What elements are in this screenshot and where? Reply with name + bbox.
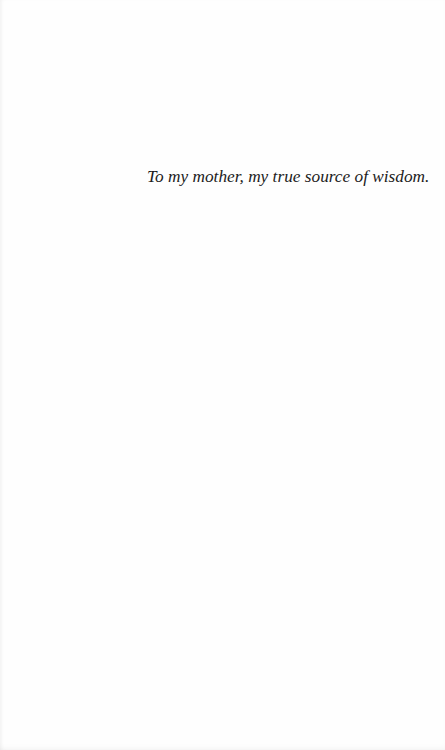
dedication-text: To my mother, my true source of wisdom.: [147, 166, 437, 188]
book-page: To my mother, my true source of wisdom.: [0, 0, 445, 750]
